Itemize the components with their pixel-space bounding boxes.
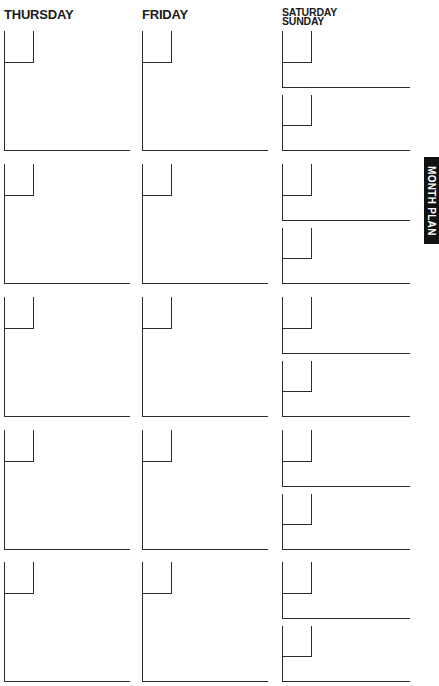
saturday-cell[interactable] — [282, 562, 410, 619]
date-box[interactable] — [143, 430, 172, 462]
month-plan-tab-label: MONTH PLAN — [426, 166, 437, 236]
date-box[interactable] — [143, 164, 172, 196]
thursday-cell[interactable] — [4, 297, 130, 417]
date-box[interactable] — [283, 562, 312, 594]
date-box[interactable] — [143, 31, 172, 63]
thursday-cell[interactable] — [4, 430, 130, 550]
sunday-cell[interactable] — [282, 228, 410, 284]
date-box[interactable] — [143, 562, 172, 594]
date-box[interactable] — [5, 297, 34, 329]
month-plan-tab[interactable]: MONTH PLAN — [424, 157, 439, 244]
date-box[interactable] — [283, 361, 312, 392]
date-box[interactable] — [5, 562, 34, 594]
date-box[interactable] — [283, 297, 312, 329]
date-box[interactable] — [5, 430, 34, 462]
date-box[interactable] — [283, 494, 312, 525]
friday-cell[interactable] — [142, 562, 268, 682]
sunday-cell[interactable] — [282, 626, 410, 682]
saturday-cell[interactable] — [282, 164, 410, 221]
friday-cell[interactable] — [142, 297, 268, 417]
header-saturday-sunday: SATURDAY SUNDAY — [282, 8, 337, 26]
thursday-cell[interactable] — [4, 164, 130, 284]
friday-cell[interactable] — [142, 164, 268, 284]
sunday-cell[interactable] — [282, 494, 410, 550]
thursday-cell[interactable] — [4, 562, 130, 682]
date-box[interactable] — [5, 164, 34, 196]
thursday-cell[interactable] — [4, 31, 130, 151]
date-box[interactable] — [283, 626, 312, 657]
sunday-cell[interactable] — [282, 95, 410, 151]
date-box[interactable] — [143, 297, 172, 329]
header-sunday: SUNDAY — [282, 17, 337, 26]
date-box[interactable] — [5, 31, 34, 63]
friday-cell[interactable] — [142, 31, 268, 151]
header-thursday: THURSDAY — [4, 7, 73, 22]
date-box[interactable] — [283, 228, 312, 259]
date-box[interactable] — [283, 95, 312, 126]
header-friday: FRIDAY — [142, 7, 188, 22]
saturday-cell[interactable] — [282, 31, 410, 88]
saturday-cell[interactable] — [282, 430, 410, 487]
saturday-cell[interactable] — [282, 297, 410, 354]
date-box[interactable] — [283, 164, 312, 196]
date-box[interactable] — [283, 31, 312, 63]
friday-cell[interactable] — [142, 430, 268, 550]
sunday-cell[interactable] — [282, 361, 410, 417]
date-box[interactable] — [283, 430, 312, 462]
